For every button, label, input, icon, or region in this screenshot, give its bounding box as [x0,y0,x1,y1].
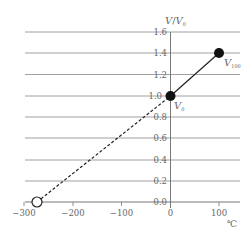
y-tick-0.6: 0.6 [153,133,167,143]
y-tick-0.4: 0.4 [153,155,167,165]
point-v100-label: V100 [224,57,241,69]
x-tick-marks [24,202,219,206]
y-tick-0.2: 0.2 [153,176,167,186]
y-tick-0.0: 0.0 [153,197,167,207]
chart: 1.6 1.4 1.2 1.0 0.8 0.6 0.4 0.2 0.0 −300… [0,0,251,241]
dashed-extrapolation-line [37,96,171,202]
x-tick-0: 0 [168,208,173,218]
x-tick-100: 100 [211,208,227,218]
point-v0-label: V0 [174,100,184,112]
x-tick-neg100: −100 [110,208,133,218]
y-axis-label: V/V0 [165,15,186,27]
x-tick-labels: −300 −200 −100 0 100 [12,208,227,218]
y-tick-1.4: 1.4 [153,48,167,58]
x-unit-label: ℃ [227,219,237,229]
y-tick-1.0: 1.0 [148,91,162,101]
x-tick-neg200: −200 [61,208,84,218]
x-tick-neg300: −300 [12,208,35,218]
point-v100 [214,48,224,58]
y-tick-1.2: 1.2 [153,70,167,80]
gridlines [25,32,240,181]
y-tick-1.6: 1.6 [153,27,167,37]
y-tick-0.8: 0.8 [153,112,167,122]
point-absolute-zero [32,197,42,207]
